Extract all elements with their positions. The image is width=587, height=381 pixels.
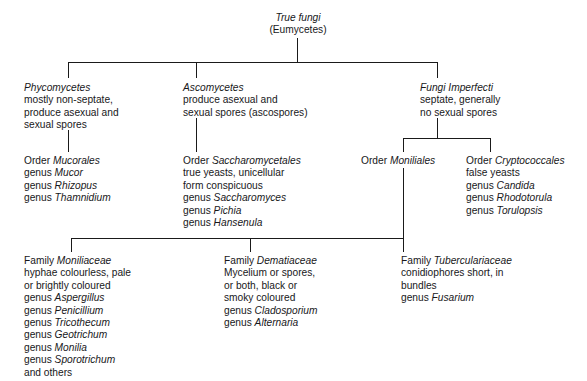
family-node-dematiaceae: Family Dematiaceae Mycelium or spores, o… — [224, 255, 317, 329]
genus-entry: genus Geotrichum — [24, 329, 131, 341]
connector-drop-dematiaceae — [250, 238, 251, 252]
genus-name: Monilia — [55, 342, 87, 353]
class-name: Phycomycetes — [24, 82, 119, 94]
order-rank-label: Order — [361, 155, 387, 166]
class-desc-line: sexual spores (ascospores) — [183, 107, 308, 119]
order-heading: Order Moniliales — [361, 155, 435, 167]
family-desc-line: hyphae colourless, pale — [24, 267, 131, 279]
genus-entry: genus Cladosporium — [224, 305, 317, 317]
genus-entry: genus Alternaria — [224, 317, 317, 329]
family-desc-line: conidiophores short, in — [401, 267, 512, 279]
genus-name: Saccharomyces — [214, 192, 286, 203]
order-heading: Order Cryptococcales — [466, 155, 565, 167]
class-node-fungi-imperfecti: Fungi Imperfecti septate, generally no s… — [420, 82, 500, 119]
genus-name: Aspergillus — [55, 292, 105, 303]
connector-family-bar — [71, 238, 403, 239]
connector-ascomycetes-to-order — [196, 118, 197, 152]
root-node-name: True fungi — [248, 12, 348, 24]
genus-entry: genus Tricothecum — [24, 317, 131, 329]
family-name: Dematiaceae — [257, 255, 317, 266]
class-desc-line: produce asexual and — [24, 107, 119, 119]
order-node-moniliales: Order Moniliales — [361, 155, 435, 167]
connector-phycomycetes-to-order — [68, 130, 69, 152]
connector-drop-phycomycetes — [68, 62, 69, 78]
genus-name: Sporotrichum — [55, 354, 116, 365]
order-desc-line: false yeasts — [466, 167, 565, 179]
order-name: Mucorales — [53, 155, 100, 166]
genus-entry: genus Thamnidium — [24, 192, 111, 204]
genus-name: Geotrichum — [55, 329, 108, 340]
family-name: Moniliaceae — [57, 255, 111, 266]
connector-drop-moniliaceae — [71, 238, 72, 252]
genus-name: Hansenula — [214, 217, 263, 228]
genus-name: Rhizopus — [55, 180, 97, 191]
family-desc-line: or brightly coloured — [24, 280, 131, 292]
class-node-ascomycetes: Ascomycetes produce asexual and sexual s… — [183, 82, 308, 119]
family-rank-label: Family — [24, 255, 54, 266]
family-rank-label: Family — [401, 255, 431, 266]
genus-entry: genus Rhodotorula — [466, 192, 565, 204]
genus-name: Torulopsis — [497, 205, 543, 216]
genus-entry: genus Candida — [466, 180, 565, 192]
order-rank-label: Order — [24, 155, 50, 166]
family-name: Tuberculariaceae — [434, 255, 512, 266]
connector-drop-moniliales — [403, 138, 404, 152]
family-desc-line: or both, black or — [224, 280, 317, 292]
genus-name: Pichia — [214, 205, 242, 216]
family-heading: Family Tuberculariaceae — [401, 255, 512, 267]
genus-entry: genus Torulopsis — [466, 205, 565, 217]
family-heading: Family Dematiaceae — [224, 255, 317, 267]
class-desc-line: sexual spores — [24, 119, 119, 131]
fungi-taxonomy-diagram: True fungi (Eumycetes) Phycomycetes most… — [0, 0, 587, 381]
connector-imperfecti-order-bar — [403, 138, 491, 139]
connector-drop-tuberculariaceae — [403, 238, 404, 252]
genus-name: Fusarium — [432, 292, 474, 303]
genus-name: Candida — [497, 180, 535, 191]
order-node-cryptococcales: Order Cryptococcales false yeasts genus … — [466, 155, 565, 217]
genus-name: Alternaria — [255, 317, 299, 328]
genus-entry: genus Penicillium — [24, 305, 131, 317]
order-name: Saccharomycetales — [212, 155, 301, 166]
genus-name: Cladosporium — [255, 305, 318, 316]
genus-entry: genus Saccharomyces — [183, 192, 301, 204]
family-desc-line: Mycelium or spores, — [224, 267, 317, 279]
connector-drop-fungi-imperfecti — [437, 62, 438, 78]
order-name: Moniliales — [390, 155, 435, 166]
order-name: Cryptococcales — [495, 155, 565, 166]
class-name: Fungi Imperfecti — [420, 82, 500, 94]
genus-name: Rhodotorula — [497, 192, 553, 203]
connector-class-bar — [68, 62, 438, 63]
class-name: Ascomycetes — [183, 82, 308, 94]
family-footer: and others — [24, 367, 131, 379]
class-desc-line: produce asexual and — [183, 94, 308, 106]
class-desc-line: mostly non-septate, — [24, 94, 119, 106]
family-rank-label: Family — [224, 255, 254, 266]
family-node-moniliaceae: Family Moniliaceae hyphae colourless, pa… — [24, 255, 131, 379]
connector-drop-cryptococcales — [490, 138, 491, 152]
genus-entry: genus Hansenula — [183, 217, 301, 229]
connector-root-stem — [297, 38, 298, 62]
root-node-subtitle: (Eumycetes) — [248, 24, 348, 36]
order-desc-line: form conspicuous — [183, 180, 301, 192]
connector-drop-ascomycetes — [196, 62, 197, 78]
root-node-true-fungi: True fungi (Eumycetes) — [248, 12, 348, 37]
order-heading: Order Saccharomycetales — [183, 155, 301, 167]
order-node-saccharomycetales: Order Saccharomycetales true yeasts, uni… — [183, 155, 301, 229]
genus-name: Mucor — [55, 167, 83, 178]
genus-entry: genus Rhizopus — [24, 180, 111, 192]
family-node-tuberculariaceae: Family Tuberculariaceae conidiophores sh… — [401, 255, 512, 305]
connector-fungi-imperfecti-stem — [437, 118, 438, 138]
genus-name: Tricothecum — [55, 317, 110, 328]
class-desc-line: no sexual spores — [420, 107, 500, 119]
genus-name: Penicillium — [55, 305, 104, 316]
order-rank-label: Order — [183, 155, 209, 166]
order-rank-label: Order — [466, 155, 492, 166]
genus-entry: genus Aspergillus — [24, 292, 131, 304]
genus-entry: genus Monilia — [24, 342, 131, 354]
class-desc-line: septate, generally — [420, 94, 500, 106]
genus-entry: genus Fusarium — [401, 292, 512, 304]
genus-entry: genus Sporotrichum — [24, 354, 131, 366]
order-node-mucorales: Order Mucorales genus Mucor genus Rhizop… — [24, 155, 111, 205]
class-node-phycomycetes: Phycomycetes mostly non-septate, produce… — [24, 82, 119, 132]
genus-entry: genus Mucor — [24, 167, 111, 179]
